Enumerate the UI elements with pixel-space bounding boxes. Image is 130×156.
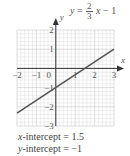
equation-lhs: y <box>70 5 74 16</box>
fraction-denominator: 3 <box>86 12 93 21</box>
x-intercept-value: -intercept = 1.5 <box>22 131 83 142</box>
x-intercept-caption: x-intercept = 1.5 <box>18 131 84 142</box>
y-tick-label: −1 <box>44 83 54 93</box>
equation-label: y = 2 3 x − 1 <box>70 2 116 21</box>
x-tick-label: 0 <box>47 70 52 80</box>
x-tick-label: 2 <box>92 70 97 80</box>
y-tick-label: −3 <box>44 121 54 130</box>
x-axis-label: x <box>120 55 125 65</box>
x-tick-label: −2 <box>12 70 22 80</box>
fraction: 2 3 <box>86 2 93 21</box>
y-axis-label: y <box>59 12 64 22</box>
x-axis-arrow-icon <box>117 65 124 71</box>
y-tick-label: 1 <box>49 44 54 54</box>
x-tick-label: 3 <box>112 70 117 80</box>
function-line <box>17 49 114 113</box>
y-tick-label: −2 <box>44 102 54 112</box>
equation-constant: − 1 <box>103 5 116 16</box>
y-intercept-value: -intercept = −1 <box>22 143 82 154</box>
y-intercept-caption: y-intercept = −1 <box>18 143 82 154</box>
x-tick-label: −1 <box>32 70 42 80</box>
y-axis-arrow-icon <box>53 18 59 25</box>
y-tick-label: 2 <box>49 25 54 35</box>
equation-variable: x <box>96 5 100 16</box>
